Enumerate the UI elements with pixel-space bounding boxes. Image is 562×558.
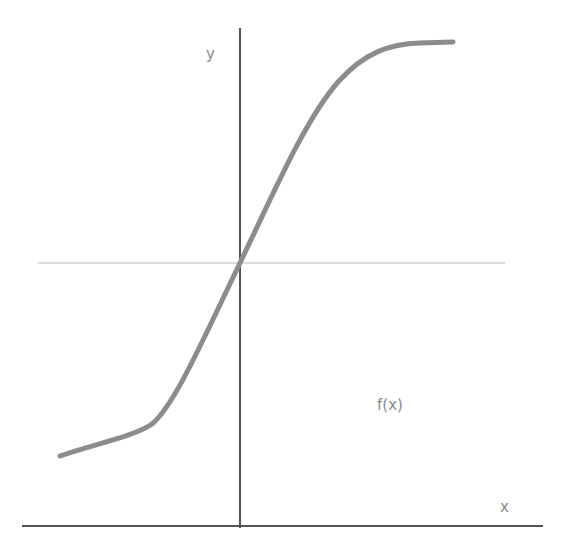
sigmoid-diagram: y f(x) x — [0, 0, 562, 558]
function-curve — [60, 42, 453, 456]
x-axis-label: x — [500, 500, 509, 515]
diagram-svg — [0, 0, 562, 558]
function-label: f(x) — [377, 398, 403, 413]
y-axis-label: y — [206, 47, 215, 62]
